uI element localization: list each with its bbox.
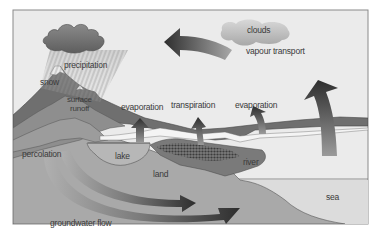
label-surface-runoff-line1: surface	[67, 95, 93, 104]
label-vapour-transport: vapour transport	[246, 46, 306, 56]
label-snow: snow	[40, 77, 60, 87]
label-groundwater-flow: groundwater flow	[50, 218, 113, 228]
label-land: land	[153, 169, 169, 179]
label-river: river	[243, 157, 259, 167]
label-transpiration: transpiration	[171, 100, 216, 110]
water-cycle-diagram: clouds vapour transport precipitation sn…	[0, 0, 381, 244]
label-clouds: clouds	[247, 25, 270, 35]
label-percolation: percolation	[22, 149, 62, 159]
label-evaporation-river: evaporation	[235, 100, 278, 110]
label-lake: lake	[115, 151, 130, 161]
label-precipitation: precipitation	[64, 60, 108, 70]
label-sea: sea	[326, 192, 340, 202]
label-evaporation-lake: evaporation	[121, 102, 164, 112]
label-surface-runoff-line2: runoff	[70, 104, 90, 113]
